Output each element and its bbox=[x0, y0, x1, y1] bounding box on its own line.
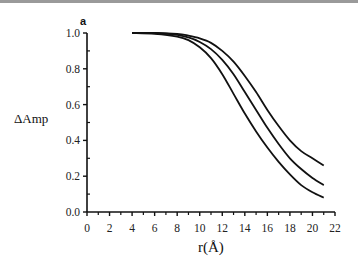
x-tick-label: 16 bbox=[262, 222, 274, 234]
x-tick-label: 4 bbox=[129, 222, 135, 234]
data-curves bbox=[132, 33, 324, 198]
panel-label: a bbox=[80, 15, 87, 27]
x-tick-label: 0 bbox=[84, 222, 90, 234]
y-axis: 0.00.20.40.60.81.0 bbox=[66, 27, 90, 218]
y-tick-label: 0.2 bbox=[66, 170, 81, 182]
y-tick-label: 0.6 bbox=[66, 99, 81, 111]
y-axis-label: ΔAmp bbox=[14, 111, 48, 126]
x-tick-label: 20 bbox=[307, 222, 319, 234]
y-tick-label: 0.4 bbox=[66, 134, 81, 146]
x-tick-label: 10 bbox=[194, 222, 206, 234]
y-tick-label: 1.0 bbox=[66, 27, 81, 39]
x-tick-label: 2 bbox=[107, 222, 113, 234]
x-tick-label: 22 bbox=[329, 222, 341, 234]
x-tick-label: 8 bbox=[174, 222, 180, 234]
x-axis-label: r(Å) bbox=[198, 239, 224, 256]
x-tick-label: 6 bbox=[152, 222, 158, 234]
data-series-line bbox=[132, 33, 324, 166]
x-tick-label: 12 bbox=[217, 222, 229, 234]
data-series-line bbox=[132, 33, 324, 198]
x-axis: 0246810121416182022 bbox=[84, 212, 341, 234]
y-tick-label: 0.0 bbox=[66, 206, 81, 218]
x-tick-label: 14 bbox=[239, 222, 251, 234]
y-tick-label: 0.8 bbox=[66, 63, 81, 75]
x-tick-label: 18 bbox=[284, 222, 296, 234]
line-chart: a 0.00.20.40.60.81.0 0246810121416182022… bbox=[0, 0, 358, 272]
